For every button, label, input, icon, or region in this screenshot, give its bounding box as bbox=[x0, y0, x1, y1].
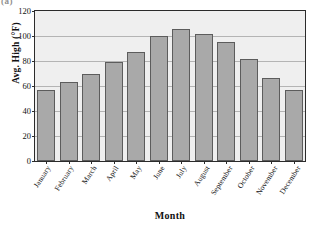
bar-slot bbox=[103, 11, 126, 161]
bar-slot bbox=[238, 11, 261, 161]
bar-slot bbox=[80, 11, 103, 161]
bar-slot bbox=[58, 11, 81, 161]
y-axis-title: Avg. High (°F) bbox=[11, 0, 21, 113]
bar-slot bbox=[170, 11, 193, 161]
x-tick-label: April bbox=[104, 164, 121, 183]
y-tick-label: 60 bbox=[23, 82, 32, 91]
x-tick-label: March bbox=[80, 164, 99, 186]
bar bbox=[82, 74, 100, 162]
x-tick-label: August bbox=[192, 164, 212, 188]
plot-area: 020406080100120 bbox=[34, 10, 306, 162]
x-label-slot: July bbox=[170, 163, 193, 209]
bar bbox=[172, 29, 190, 161]
x-axis-title: Month bbox=[34, 210, 306, 221]
y-tick-label: 80 bbox=[23, 57, 32, 66]
bar-series bbox=[35, 11, 305, 161]
bar bbox=[105, 62, 123, 161]
y-tick-label: 100 bbox=[18, 32, 31, 41]
figure-panel: (a) Avg. High (°F) 020406080100120 Janua… bbox=[0, 0, 313, 229]
bar bbox=[150, 36, 168, 161]
x-tick-label: June bbox=[151, 164, 166, 181]
x-tick-label: February bbox=[53, 164, 76, 193]
bar-slot bbox=[193, 11, 216, 161]
y-tick-label: 40 bbox=[23, 107, 32, 116]
bar-slot bbox=[35, 11, 58, 161]
bar bbox=[217, 42, 235, 161]
x-label-slot: February bbox=[57, 163, 80, 209]
x-label-slot: June bbox=[147, 163, 170, 209]
bar-slot bbox=[125, 11, 148, 161]
bar bbox=[240, 59, 258, 162]
bar bbox=[60, 82, 78, 161]
x-label-slot: December bbox=[283, 163, 306, 209]
x-tick-label: July bbox=[174, 164, 189, 180]
x-tick-label: January bbox=[32, 164, 53, 189]
x-label-slot: September bbox=[215, 163, 238, 209]
bar bbox=[127, 52, 145, 161]
y-tick-mark bbox=[32, 161, 35, 162]
x-label-slot: April bbox=[102, 163, 125, 209]
bar-slot bbox=[215, 11, 238, 161]
bar bbox=[262, 78, 280, 161]
y-tick-label: 0 bbox=[27, 157, 31, 166]
x-tick-label: May bbox=[128, 164, 143, 181]
bar bbox=[285, 90, 303, 161]
bar-slot bbox=[148, 11, 171, 161]
x-tick-label: October bbox=[236, 164, 257, 190]
x-axis-tick-labels: JanuaryFebruaryMarchAprilMayJuneJulyAugu… bbox=[34, 163, 306, 209]
y-tick-label: 20 bbox=[23, 132, 32, 141]
x-label-slot: May bbox=[125, 163, 148, 209]
bar-slot bbox=[260, 11, 283, 161]
x-label-slot: March bbox=[79, 163, 102, 209]
bar bbox=[37, 90, 55, 161]
bar bbox=[195, 34, 213, 162]
bar-slot bbox=[283, 11, 306, 161]
y-tick-label: 120 bbox=[18, 7, 31, 16]
